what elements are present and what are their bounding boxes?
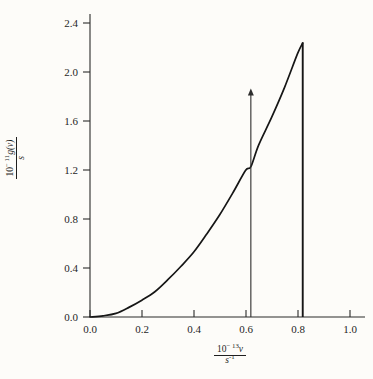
x-axis-title-num-var: v xyxy=(239,344,243,354)
y-tick-marks xyxy=(83,23,90,317)
y-tick-label-5: 2.0 xyxy=(64,66,78,78)
x-tick-marks xyxy=(90,310,350,317)
frequency-marker-arrowhead-icon xyxy=(248,89,254,96)
chart-page: 0.0 0.4 0.8 1.2 1.6 2.0 2.4 0.0 0.2 0.4 … xyxy=(0,0,373,379)
x-axis-title-num-prefix: 10 xyxy=(217,344,227,354)
y-tick-label-4: 1.6 xyxy=(64,115,78,127)
x-tick-label-1: 0.2 xyxy=(135,323,149,335)
x-tick-label-5: 1.0 xyxy=(343,323,357,335)
x-axis-title-denominator: s-1 xyxy=(214,356,246,366)
y-tick-label-6: 2.4 xyxy=(64,17,78,29)
y-axis-title-fraction: 10− 11g(v) s xyxy=(6,137,27,180)
x-axis-title-num-exponent: − 13 xyxy=(226,342,238,349)
x-tick-label-2: 0.4 xyxy=(187,323,201,335)
y-tick-label-3: 1.2 xyxy=(64,164,78,176)
y-axis-title-num-exponent: − 11 xyxy=(3,155,10,167)
x-axis-title-den-exponent: -1 xyxy=(229,353,235,360)
x-axis-title: 10− 13v s-1 xyxy=(184,345,276,366)
y-axis-title-num-var: g(v) xyxy=(5,140,15,155)
axes-group xyxy=(90,14,365,317)
y-tick-label-0: 0.0 xyxy=(64,311,78,323)
debye-density-of-states-chart: 0.0 0.4 0.8 1.2 1.6 2.0 2.4 0.0 0.2 0.4 … xyxy=(0,0,373,379)
y-axis-title-num-prefix: 10 xyxy=(5,167,15,177)
x-tick-label-3: 0.6 xyxy=(239,323,253,335)
x-axis-title-fraction: 10− 13v s-1 xyxy=(214,345,246,366)
x-tick-label-0: 0.0 xyxy=(83,323,97,335)
density-of-states-curve xyxy=(90,43,303,317)
x-tick-label-4: 0.8 xyxy=(291,323,305,335)
y-axis-title-denominator: s xyxy=(17,137,27,180)
y-axis-title: 10− 11g(v) s xyxy=(6,118,27,198)
x-tick-labels: 0.0 0.2 0.4 0.6 0.8 1.0 xyxy=(83,323,357,335)
y-tick-label-2: 0.8 xyxy=(64,213,78,225)
y-tick-label-1: 0.4 xyxy=(64,262,78,274)
y-tick-labels: 0.0 0.4 0.8 1.2 1.6 2.0 2.4 xyxy=(64,17,78,323)
